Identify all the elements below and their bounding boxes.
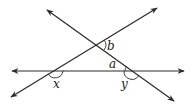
- label-b: b: [107, 39, 115, 53]
- angle-b-arc: [104, 41, 106, 51]
- label-a: a: [109, 57, 116, 71]
- descending-line: [47, 10, 174, 101]
- label-y: y: [120, 77, 128, 91]
- ascending-line: [11, 8, 157, 97]
- label-x: x: [53, 77, 60, 91]
- angle-diagram: b a x y: [0, 0, 194, 108]
- angle-a-arc: [125, 67, 127, 72]
